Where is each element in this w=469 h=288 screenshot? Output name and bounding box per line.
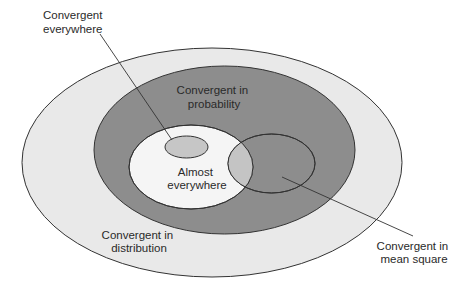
label-everywhere: Convergent everywhere [43,9,106,35]
label-mean-square: Convergent in mean square [377,240,452,265]
convergence-diagram: Convergent everywhere Convergent in prob… [0,0,469,288]
label-distribution: Convergent in distribution [102,229,177,254]
